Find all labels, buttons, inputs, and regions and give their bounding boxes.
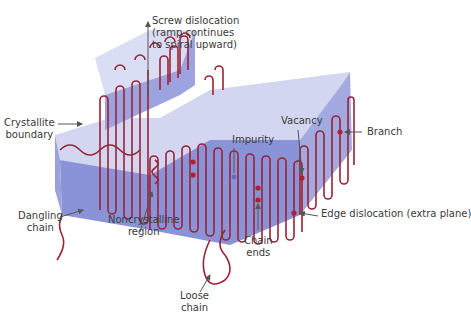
branch-dot xyxy=(337,129,342,134)
label-chain-ends: Chain ends xyxy=(244,235,273,259)
chain-end-dot xyxy=(190,159,195,164)
label-vacancy: Vacancy xyxy=(281,115,323,127)
label-line: (ramp continues xyxy=(152,27,239,39)
label-line: chain xyxy=(18,222,63,234)
edge-dislocation-dot xyxy=(291,210,296,215)
label-line: Dangling xyxy=(18,210,63,222)
chain-end-dot xyxy=(190,172,195,177)
label-line: to spiral upward) xyxy=(152,39,239,51)
label-line: chain xyxy=(180,302,209,314)
label-noncrystalline-region: Noncrystalline region xyxy=(108,214,180,238)
label-loose-chain: Loose chain xyxy=(180,290,209,314)
label-dangling-chain: Dangling chain xyxy=(18,210,63,234)
label-line: Loose xyxy=(180,290,209,302)
label-screw-dislocation: Screw dislocation (ramp continues to spi… xyxy=(152,15,239,51)
vacancy-dot xyxy=(299,175,304,180)
label-branch: Branch xyxy=(367,126,402,138)
impurity-dot xyxy=(232,175,237,180)
label-edge-dislocation: Edge dislocation (extra plane) xyxy=(321,208,471,220)
chain-end-dot xyxy=(255,197,260,202)
label-line: boundary xyxy=(4,129,55,141)
label-line: Noncrystalline xyxy=(108,214,180,226)
label-line: ends xyxy=(244,247,273,259)
label-line: Screw dislocation xyxy=(152,15,239,27)
label-line: Chain xyxy=(244,235,273,247)
chain-end-dot xyxy=(255,185,260,190)
label-crystallite-boundary: Crystallite boundary xyxy=(4,117,55,141)
label-line: region xyxy=(108,226,180,238)
label-impurity: Impurity xyxy=(232,134,274,146)
label-line: Crystallite xyxy=(4,117,55,129)
